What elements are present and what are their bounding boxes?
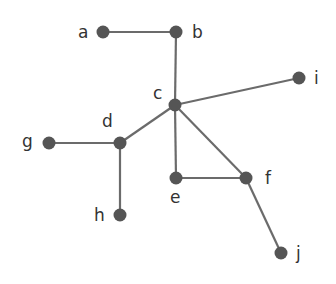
node-label-f: f <box>265 168 272 188</box>
node-label-c: c <box>153 83 162 103</box>
node-label-h: h <box>94 205 105 225</box>
node-e <box>170 172 183 185</box>
node-f <box>240 172 253 185</box>
edge-b-c <box>175 32 176 105</box>
node-label-j: j <box>295 243 301 263</box>
node-label-b: b <box>192 22 203 42</box>
node-c <box>169 99 182 112</box>
edge-f-j <box>246 178 281 253</box>
node-b <box>170 26 183 39</box>
node-label-i: i <box>314 68 319 88</box>
node-g <box>43 137 56 150</box>
edge-c-f <box>175 105 246 178</box>
node-a <box>97 26 110 39</box>
edge-c-i <box>175 78 299 105</box>
node-label-e: e <box>170 187 180 207</box>
edge-c-e <box>175 105 176 178</box>
node-d <box>114 137 127 150</box>
edges-group <box>49 32 299 253</box>
node-i <box>293 72 306 85</box>
node-j <box>275 247 288 260</box>
node-label-g: g <box>22 131 33 151</box>
node-label-d: d <box>102 111 113 131</box>
graph-diagram: abcdefghij <box>0 0 336 284</box>
node-label-a: a <box>78 22 88 42</box>
node-h <box>114 209 127 222</box>
edge-c-d <box>120 105 175 143</box>
